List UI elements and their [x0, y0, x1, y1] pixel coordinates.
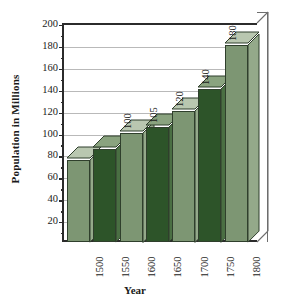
bar-front-face [172, 111, 195, 242]
x-axis-title-text: Year [124, 284, 146, 296]
bar-series: 100105120140180 [62, 23, 257, 242]
y-axis-tick-labels: 20406080100120140160180200 [30, 23, 58, 242]
y-axis-tick-label: 100 [32, 127, 58, 138]
x-axis-tick-label: 1800 [251, 257, 262, 278]
x-axis-title: Year [0, 284, 270, 296]
x-axis-tick-label: 1550 [119, 257, 130, 278]
y-axis-tick-label: 200 [32, 18, 58, 29]
bar-front-face [67, 160, 90, 242]
bar-1600[interactable] [120, 122, 143, 243]
bar-1800[interactable] [225, 34, 248, 242]
x-axis-tick-label: 1500 [93, 257, 104, 278]
x-axis-tick-label: 1750 [224, 257, 235, 278]
bar-front-face [93, 149, 116, 242]
x-axis-tick-labels: 1500155016001650170017501800 [62, 246, 257, 284]
bar-1550[interactable] [93, 138, 116, 242]
y-axis-tick-label: 180 [32, 39, 58, 50]
bar-top-face [67, 149, 90, 160]
bar-side-face [248, 34, 261, 242]
y-axis-tick-label: 20 [32, 215, 58, 226]
bar-1700[interactable] [172, 100, 195, 242]
bar-value-label: 140 [200, 69, 211, 85]
bar-front-face [225, 45, 248, 242]
bar-1750[interactable] [198, 78, 221, 242]
bar-front-face [198, 89, 221, 242]
y-axis-title-text: Population in Millions [9, 75, 21, 184]
y-axis-tick-label: 140 [32, 83, 58, 94]
y-axis-title: Population in Millions [6, 54, 24, 204]
y-axis-tick-label: 120 [32, 105, 58, 116]
x-axis-tick-label: 1650 [172, 257, 183, 278]
x-axis-tick-label: 1700 [198, 257, 209, 278]
bar-front-face [120, 133, 143, 243]
y-axis-tick-label: 80 [32, 149, 58, 160]
y-axis-tick-label: 40 [32, 193, 58, 204]
bar-value-label: 105 [148, 107, 159, 123]
bar-top-face [93, 138, 116, 149]
x-axis-tick-label: 1600 [146, 257, 157, 278]
bar-value-label: 100 [122, 113, 133, 129]
population-bar-chart: Population in Millions 20406080100120140… [0, 0, 305, 304]
bar-value-label: 180 [227, 25, 238, 41]
y-axis-tick-label: 160 [32, 61, 58, 72]
y-axis-tick-label: 60 [32, 171, 58, 182]
bar-front-face [146, 127, 169, 242]
bar-1650[interactable] [146, 116, 169, 242]
bar-1500[interactable] [67, 149, 90, 242]
bar-value-label: 120 [174, 91, 185, 107]
